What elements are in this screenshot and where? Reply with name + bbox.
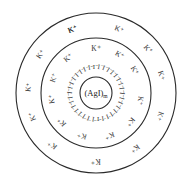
potassium-ion: K⁺ (48, 72, 60, 84)
potassium-ion: K⁺ (142, 43, 155, 56)
potassium-ion: K⁺ (67, 23, 79, 35)
potassium-ion: K⁺ (91, 157, 100, 166)
potassium-ion: K⁺ (76, 130, 88, 141)
agi-micelle-diagram: I⁻I⁻I⁻I⁻I⁻I⁻I⁻I⁻I⁻I⁻I⁻I⁻I⁻I⁻I⁻I⁻I⁻I⁻I⁻I⁻… (0, 0, 193, 186)
potassium-ion: K⁺ (124, 115, 137, 128)
core-label: (AgI)m (84, 88, 108, 99)
potassium-ion: K⁺ (62, 51, 75, 64)
potassium-ion: K⁺ (26, 110, 38, 122)
potassium-ion: K⁺ (135, 95, 145, 106)
potassium-ion: K⁺ (104, 130, 116, 141)
core-subscript: m (103, 93, 108, 99)
potassium-ion: K⁺ (129, 142, 142, 155)
potassium-ion: K⁺ (55, 115, 68, 128)
potassium-ion: K⁺ (113, 48, 126, 61)
potassium-ion: K⁺ (113, 23, 125, 35)
potassium-ion: K⁺ (154, 110, 166, 122)
potassium-ion: K⁺ (34, 48, 47, 61)
core-formula: (AgI) (84, 88, 103, 98)
potassium-ion: K⁺ (46, 94, 56, 105)
potassium-ion: K⁺ (129, 64, 142, 77)
potassium-ion: K⁺ (23, 82, 33, 92)
potassium-ion: K⁺ (46, 139, 59, 152)
potassium-ion: K⁺ (156, 70, 167, 81)
potassium-ion: K⁺ (91, 44, 100, 53)
